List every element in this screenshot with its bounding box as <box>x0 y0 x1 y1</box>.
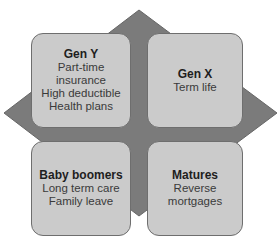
quadrant-title: Gen X <box>178 68 213 81</box>
quadrant-gen-x: Gen X Term life <box>147 33 243 128</box>
quadrant-matures: Matures Reverse mortgages <box>147 141 243 236</box>
quadrant-gen-y: Gen Y Part-time insurance High deductibl… <box>31 33 131 128</box>
quadrant-line: insurance <box>56 74 106 87</box>
quadrant-line: Reverse <box>174 182 217 195</box>
quadrant-line: Health plans <box>49 100 113 113</box>
quadrant-title: Gen Y <box>64 48 98 61</box>
quadrant-line: High deductible <box>41 87 120 100</box>
quadrant-line: Family leave <box>49 195 114 208</box>
quadrant-baby-boomers: Baby boomers Long term care Family leave <box>31 141 131 236</box>
quadrant-title: Matures <box>172 169 218 182</box>
quadrant-line: Long term care <box>42 182 119 195</box>
quadrant-line: Part-time <box>58 61 105 74</box>
quadrant-line: Term life <box>173 81 216 94</box>
quadrant-title: Baby boomers <box>39 169 122 182</box>
quadrant-line: mortgages <box>168 195 222 208</box>
